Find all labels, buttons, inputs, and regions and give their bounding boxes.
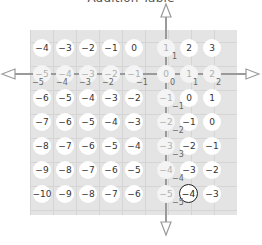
grid-cell: −7 (102, 185, 120, 203)
grid-cell: −1 (203, 137, 221, 155)
grid-cell: −6 (79, 137, 97, 155)
grid-cell: −9 (33, 161, 51, 179)
grid-cell: −4 (33, 39, 51, 57)
row-subscript: −3 (79, 78, 91, 87)
col-subscript: −2 (172, 126, 184, 135)
arrow-left-icon (2, 68, 16, 80)
row-subscript: 0 (170, 78, 175, 87)
col-subscript: 1 (172, 52, 177, 61)
row-subscript: −4 (56, 78, 68, 87)
grid-cell: −5 (79, 113, 97, 131)
arrow-up-icon (160, 4, 172, 18)
row-subscript: −5 (32, 78, 44, 87)
grid-cell: −6 (125, 185, 143, 203)
grid-cell: −9 (56, 185, 74, 203)
col-subscript: −3 (172, 150, 184, 159)
grid-cell: −2 (79, 39, 97, 57)
col-subscript: −4 (172, 174, 184, 183)
row-subscript: 1 (193, 78, 198, 87)
grid-cell: −2 (125, 89, 143, 107)
grid-cell: −6 (102, 161, 120, 179)
grid-cell: −4 (125, 137, 143, 155)
grid-cell: −3 (203, 185, 221, 203)
grid-cell: 0 (203, 113, 221, 131)
grid-cell: −5 (56, 89, 74, 107)
grid-cell: −5 (102, 137, 120, 155)
diagram-title: Addition Table (0, 0, 262, 5)
grid-cell: −8 (79, 185, 97, 203)
grid-cell: −2 (203, 161, 221, 179)
grid-cell: 3 (203, 39, 221, 57)
grid-cell: −3 (102, 89, 120, 107)
grid-cell: −7 (79, 161, 97, 179)
grid-cell: −1 (102, 39, 120, 57)
row-subscript: −1 (136, 78, 148, 87)
arrow-down-icon (160, 222, 172, 236)
grid-cell: −10 (33, 185, 51, 203)
grid-cell: −4 (79, 89, 97, 107)
grid-cell: −8 (33, 137, 51, 155)
grid-cell: −7 (33, 113, 51, 131)
grid-cell: −6 (56, 113, 74, 131)
row-subscript: 2 (216, 78, 221, 87)
col-subscript: −1 (172, 102, 184, 111)
arrow-right-icon (246, 68, 260, 80)
grid-cell: −7 (56, 137, 74, 155)
grid-cell: −3 (56, 39, 74, 57)
grid-cell: −3 (125, 113, 143, 131)
grid-cell: −5 (125, 161, 143, 179)
grid-cell: 1 (203, 89, 221, 107)
col-subscript: −5 (172, 198, 184, 207)
grid-cell: −8 (56, 161, 74, 179)
row-subscript: −2 (102, 78, 114, 87)
grid-cell: −4 (102, 113, 120, 131)
grid-cell: 2 (180, 39, 198, 57)
grid-cell: −6 (33, 89, 51, 107)
grid-cell: 0 (125, 39, 143, 57)
